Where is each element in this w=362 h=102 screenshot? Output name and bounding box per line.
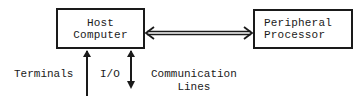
- peripheral-label-line2: Processor: [264, 29, 325, 41]
- peripheral-processor-node: Peripheral Processor: [253, 9, 353, 49]
- io-label: I/O: [100, 68, 120, 80]
- host-peripheral-double-arrow: [146, 27, 252, 39]
- host-computer-node: Host Computer: [56, 8, 145, 49]
- communication-label-line1: Communication: [151, 68, 237, 81]
- host-label-line2: Computer: [73, 29, 127, 41]
- io-double-headed-arrow: [127, 50, 135, 89]
- communication-lines-label: Communication Lines: [151, 68, 237, 94]
- peripheral-label-line1: Peripheral: [264, 17, 332, 29]
- communication-label-line2: Lines: [151, 81, 237, 94]
- host-label-line1: Host: [87, 17, 114, 29]
- terminals-arrow: [83, 50, 91, 96]
- terminals-label: Terminals: [14, 68, 73, 80]
